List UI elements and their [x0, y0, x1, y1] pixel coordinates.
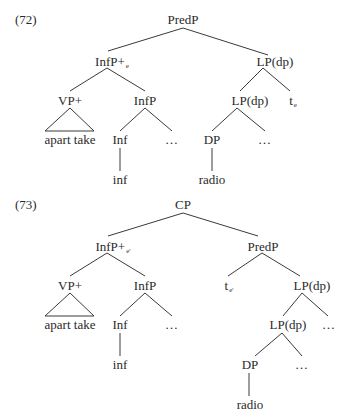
example-number: (72) [15, 13, 37, 27]
node-subscript: e [294, 101, 297, 109]
node-predp: PredP [247, 240, 278, 254]
node-lp-dp-inner: LP(dp) [270, 318, 307, 332]
node-lp-dp-top: LP(dp) [257, 55, 294, 69]
node-radio: radio [199, 173, 226, 187]
node-trace: te' [225, 279, 234, 297]
node-infp: InfP [134, 94, 156, 108]
node-ellipsis: … [165, 318, 179, 332]
node-dp: DP [242, 358, 259, 372]
node-inf-word: inf [113, 173, 127, 187]
node-subscript: e' [126, 247, 130, 255]
node-subscript: e [126, 62, 129, 70]
tree-73-edges [45, 213, 328, 396]
node-apart-take: apart take [45, 133, 96, 147]
node-infp-plus: InfP+e' [95, 240, 130, 258]
node-inf-head: Inf [112, 318, 127, 332]
node-vp-plus: VP+ [58, 94, 82, 108]
node-lp-dp-top: LP(dp) [294, 279, 331, 293]
node-infp-plus: InfP+e [95, 55, 129, 73]
node-predp-root: PredP [167, 13, 198, 27]
node-ellipsis: … [258, 133, 272, 147]
example-number: (73) [15, 198, 37, 212]
node-subscript: e' [229, 286, 233, 294]
node-ellipsis: … [295, 358, 309, 372]
node-lp-dp-inner: LP(dp) [232, 94, 269, 108]
node-radio: radio [237, 398, 264, 412]
node-infp: InfP [134, 279, 156, 293]
node-ellipsis: … [165, 133, 179, 147]
node-label: t [225, 278, 229, 293]
node-cp-root: CP [175, 198, 191, 212]
node-label: t [289, 93, 293, 108]
node-inf-word: inf [113, 358, 127, 372]
node-dp: DP [204, 133, 221, 147]
node-vp-plus: VP+ [58, 279, 82, 293]
node-label: InfP+ [95, 54, 125, 69]
node-ellipsis: … [322, 318, 336, 332]
node-trace: te [289, 94, 297, 112]
node-label: InfP+ [95, 239, 125, 254]
node-inf-head: Inf [112, 133, 127, 147]
node-apart-take: apart take [45, 318, 96, 332]
